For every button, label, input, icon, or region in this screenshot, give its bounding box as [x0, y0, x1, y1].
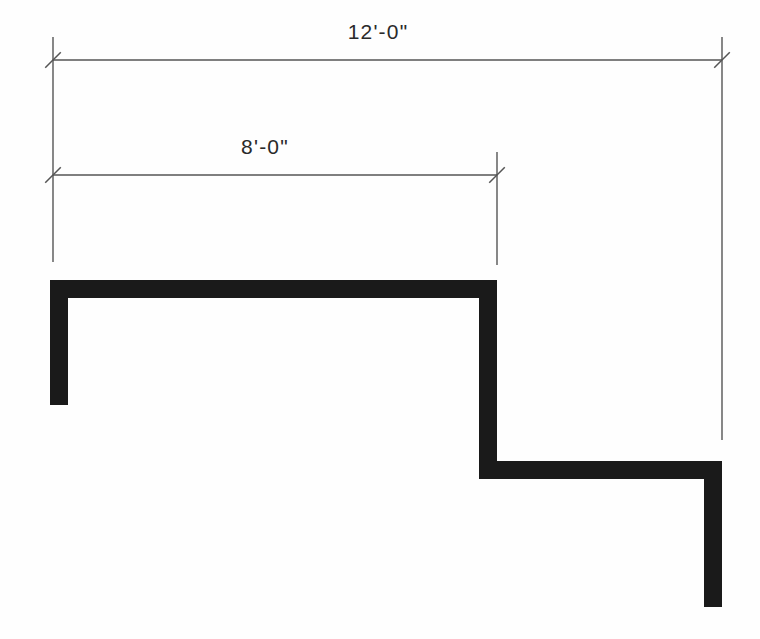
- dimension-overall-width: 12'-0": [45, 20, 730, 68]
- dimension-first-bay-width: 8'-0": [45, 135, 505, 183]
- extension-lines-group: [53, 37, 722, 440]
- stepped-wall-group: [59, 289, 713, 607]
- dimension-label-first-bay-width: 8'-0": [241, 135, 289, 158]
- dimension-label-overall-width: 12'-0": [348, 20, 409, 43]
- drawing-canvas: 12'-0" 8'-0": [0, 0, 760, 639]
- technical-drawing: 12'-0" 8'-0": [0, 0, 760, 639]
- stepped-wall: [59, 289, 713, 607]
